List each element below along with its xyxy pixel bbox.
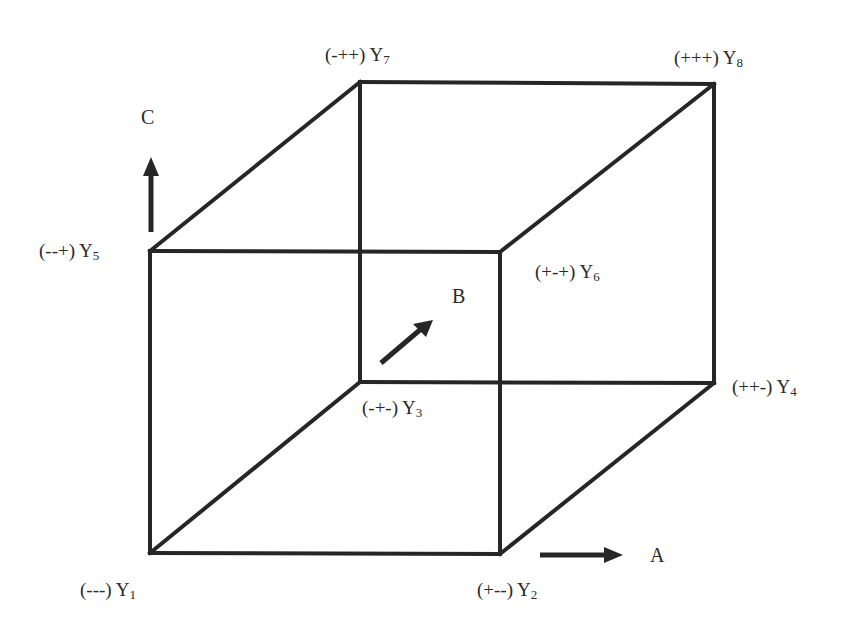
vertex-label-y6: (+-+) Y6 [535, 262, 600, 283]
vertex-subscript: 7 [383, 52, 390, 67]
vertex-subscript: 2 [531, 587, 538, 602]
vertex-label-y8: (+++) Y8 [674, 48, 743, 69]
vertex-subscript: 8 [737, 55, 744, 70]
axis-c-arrow-icon [143, 157, 159, 232]
vertex-label-y3: (-+-) Y3 [362, 398, 422, 419]
vertex-subscript: 4 [790, 384, 797, 399]
vertex-signs: (++-) [732, 376, 772, 397]
vertex-label-y2: (+--) Y2 [477, 580, 537, 601]
vertex-signs: (--+) [39, 240, 75, 261]
vertex-signs: (---) [80, 579, 112, 600]
vertex-name: Y [402, 397, 416, 418]
vertex-subscript: 3 [416, 405, 423, 420]
vertex-signs: (-++) [325, 44, 365, 65]
axis-a-arrow-icon [540, 547, 623, 563]
vertex-name: Y [723, 47, 737, 68]
vertex-signs: (+-+) [535, 261, 575, 282]
vertex-label-y7: (-++) Y7 [325, 45, 390, 66]
vertex-label-y1: (---) Y1 [80, 580, 136, 601]
edge-y1-y3 [150, 382, 360, 553]
vertex-signs: (+++) [674, 47, 719, 68]
edge-y6-y8 [500, 84, 714, 252]
vertex-name: Y [369, 44, 383, 65]
vertex-label-y5: (--+) Y5 [39, 241, 99, 262]
vertex-label-y4: (++-) Y4 [732, 377, 797, 398]
axis-b-arrow-icon [381, 320, 433, 363]
vertex-subscript: 5 [93, 248, 100, 263]
edge-y7-y8 [360, 82, 714, 84]
vertex-subscript: 6 [593, 269, 600, 284]
vertex-name: Y [776, 376, 790, 397]
vertex-name: Y [116, 579, 130, 600]
vertex-name: Y [79, 240, 93, 261]
depth-edges [150, 82, 714, 554]
axis-c-label: C [141, 107, 154, 127]
vertex-signs: (-+-) [362, 397, 398, 418]
factorial-cube-diagram [0, 0, 860, 636]
edge-y5-y7 [150, 82, 360, 251]
vertex-name: Y [517, 579, 531, 600]
edge-y5-y6 [150, 251, 500, 252]
edge-y3-y4 [360, 382, 714, 383]
edge-y1-y2 [150, 553, 500, 554]
vertex-subscript: 1 [129, 587, 136, 602]
axis-b-label: B [452, 286, 465, 306]
vertex-signs: (+--) [477, 579, 513, 600]
axis-a-label: A [650, 545, 664, 565]
vertex-name: Y [579, 261, 593, 282]
edge-y2-y4 [500, 383, 714, 554]
